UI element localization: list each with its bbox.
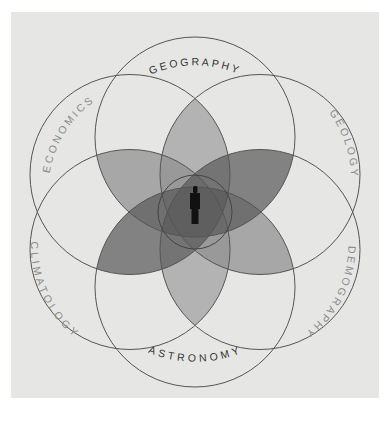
venn-flower-diagram: GEOGRAPHY GEOLOGY DEMOGRAPHY ASTRONOMY C…	[0, 0, 387, 422]
label-geology: GEOLOGY	[327, 107, 361, 179]
label-climatology: CLIMATOLOGY	[29, 241, 83, 339]
label-economics: ECONOMICS	[40, 93, 97, 174]
label-geography: GEOGRAPHY	[147, 55, 243, 76]
label-astronomy: ASTRONOMY	[147, 343, 243, 364]
